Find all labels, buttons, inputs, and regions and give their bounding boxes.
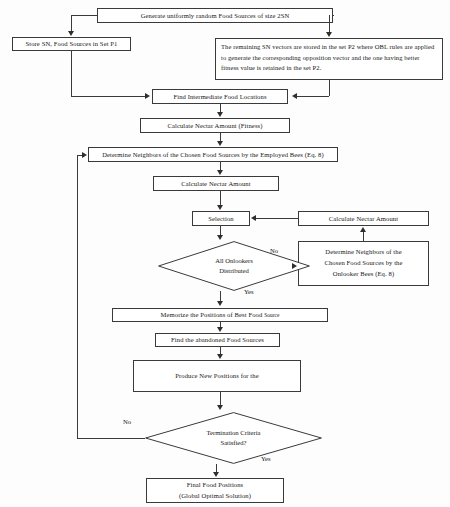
- node-memorize-best-food-source-label: Memorize the Positions of Best Food Sour…: [161, 310, 280, 320]
- edge-obl-to-intermediate-arrow: [292, 93, 297, 99]
- edge-generate-to-obl-v: [329, 15, 330, 33]
- decision-all-onlookers-label: All Onlookers Distributed: [158, 241, 310, 291]
- edge-obl-to-intermediate-h: [297, 96, 329, 97]
- node-calculate-nectar-employed-label: Calculate Nectar Amount: [181, 179, 250, 189]
- edge-label-onlookers-no: No: [270, 247, 278, 254]
- node-employed-bees-neighbors-label: Determine Neighbors of the Chosen Food S…: [102, 150, 324, 160]
- edge-termination-yes-arrow: [213, 472, 219, 477]
- edge-store-to-intermediate-arrow: [145, 93, 150, 99]
- edge-generate-to-store-v: [71, 15, 72, 32]
- decision-termination-criteria: Termination Criteria Satisfied?: [145, 412, 322, 464]
- node-produce-new-positions-label: Produce New Positions for the: [175, 371, 258, 381]
- edge-termination-no-arrow: [82, 152, 87, 158]
- edge-store-to-intermediate-v: [71, 51, 72, 96]
- edge-label-termination-no: No: [123, 418, 131, 425]
- node-final-food-positions-line2: (Global Optimal Solution): [179, 491, 251, 502]
- edge-nectar1-to-selection-v: [220, 191, 221, 206]
- edge-abandoned-to-produce-arrow: [217, 354, 223, 359]
- edge-nectar2-to-selection-arrow: [251, 215, 256, 221]
- edge-onlookers-yes-arrow: [217, 301, 223, 306]
- node-store-set-p1: Store SN, Food Sources in Set P1: [12, 37, 131, 51]
- node-calculate-nectar-onlooker: Calculate Nectar Amount: [298, 211, 429, 226]
- edge-onlooker-to-nectar2-v: [363, 232, 364, 242]
- edge-store-to-intermediate-h: [71, 96, 145, 97]
- edge-fitness-to-employed-arrow: [217, 141, 223, 146]
- decision-termination-line2: Satisfied?: [220, 438, 246, 448]
- node-memorize-suffix: Source: [264, 312, 279, 318]
- node-generate-food-sources-label: Generate uniformly random Food Sources o…: [141, 11, 290, 21]
- node-onlooker-bees-neighbors: Determine Neighbors of the Chosen Food S…: [298, 241, 429, 286]
- edge-produce-to-termination-arrow: [217, 405, 223, 410]
- edge-produce-to-termination-v: [220, 392, 221, 406]
- node-generate-food-sources: Generate uniformly random Food Sources o…: [97, 8, 333, 23]
- decision-termination-label: Termination Criteria Satisfied?: [145, 412, 322, 464]
- edge-obl-to-intermediate-v: [329, 80, 330, 96]
- edge-generate-right-segment: [333, 15, 334, 16]
- edge-generate-to-store-arrow: [68, 31, 74, 36]
- node-calculate-nectar-fitness-label: Calculate Nectar Amount (Fitness): [167, 121, 262, 131]
- node-find-abandoned-sources: Find the abandoned Food Sources: [155, 333, 280, 347]
- node-memorize-prefix: Memorize the Positions of Best Food: [161, 311, 265, 318]
- node-final-food-positions: Final Food Positions (Global Optimal Sol…: [146, 478, 284, 503]
- edge-generate-to-obl-arrow: [326, 32, 332, 37]
- node-memorize-best-food-source: Memorize the Positions of Best Food Sour…: [112, 308, 328, 322]
- decision-termination-line1: Termination Criteria: [207, 428, 261, 438]
- edge-label-onlookers-yes: Yes: [244, 288, 254, 295]
- node-find-intermediate-locations: Find Intermediate Food Locations: [152, 89, 288, 104]
- node-calculate-nectar-onlooker-label: Calculate Nectar Amount: [329, 214, 398, 224]
- edge-nectar2-to-selection-h: [256, 218, 298, 219]
- node-final-food-positions-line1: Final Food Positions: [187, 480, 244, 491]
- node-onlooker-bees-neighbors-line1: Determine Neighbors of the: [325, 247, 401, 258]
- node-produce-new-positions: Produce New Positions for the: [133, 360, 301, 392]
- flowchart-canvas: Generate uniformly random Food Sources o…: [0, 0, 450, 507]
- node-selection: Selection: [192, 211, 250, 226]
- edge-onlookers-no-arrow: [292, 263, 297, 269]
- node-store-set-p1-label: Store SN, Food Sources in Set P1: [25, 39, 117, 49]
- edge-termination-no-v: [77, 155, 78, 439]
- edge-intermediate-to-fitness-arrow: [217, 112, 223, 117]
- node-onlooker-bees-neighbors-line3: Onlooker Bees (Eq. 8): [333, 269, 394, 280]
- decision-all-onlookers-line1: All Onlookers: [215, 256, 253, 266]
- node-selection-label: Selection: [208, 214, 233, 224]
- edge-employed-to-nectar1-arrow: [217, 170, 223, 175]
- edge-memorize-to-abandoned-arrow: [217, 327, 223, 332]
- edge-generate-to-store-h: [71, 15, 98, 16]
- edge-selection-to-decision-arrow: [217, 235, 223, 240]
- decision-all-onlookers-line2: Distributed: [219, 266, 249, 276]
- decision-all-onlookers-distributed: All Onlookers Distributed: [158, 241, 310, 291]
- edge-termination-no-h: [77, 438, 145, 439]
- node-obl-set-p2-label: The remaining SN vectors are stored in t…: [221, 42, 437, 74]
- node-find-abandoned-sources-label: Find the abandoned Food Sources: [171, 335, 264, 345]
- edge-label-termination-yes: Yes: [261, 455, 271, 462]
- node-obl-set-p2: The remaining SN vectors are stored in t…: [215, 38, 443, 80]
- edge-nectar1-to-selection-arrow: [217, 205, 223, 210]
- node-calculate-nectar-fitness: Calculate Nectar Amount (Fitness): [140, 118, 290, 133]
- node-find-intermediate-locations-label: Find Intermediate Food Locations: [173, 92, 266, 102]
- node-calculate-nectar-employed: Calculate Nectar Amount: [153, 176, 279, 191]
- node-onlooker-bees-neighbors-line2: Chosen Food Sources by the: [324, 258, 402, 269]
- edge-onlooker-to-nectar2-arrow: [360, 227, 366, 232]
- node-employed-bees-neighbors: Determine Neighbors of the Chosen Food S…: [88, 147, 338, 162]
